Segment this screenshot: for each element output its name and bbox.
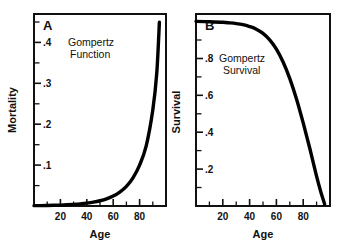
panel-a-yaxis-title: Mortality: [6, 86, 18, 133]
panel-b-survival-curve: [196, 21, 325, 204]
panel-b-survival: .2 .4 .6 .8 20 40 60 80: [171, 0, 343, 247]
panel-b-frame: [196, 14, 330, 206]
panel-b-xtick-label-2: 60: [271, 211, 283, 222]
panel-a-xtick-label-1: 40: [81, 211, 93, 222]
panel-a-annotation-line-2: Function: [70, 48, 110, 60]
panel-a-plot: .1 .2 .3 .4 20 40 60 80: [0, 0, 172, 247]
panel-b-ytick-label-1: .4: [205, 127, 214, 138]
panel-a-ytick-label-1: .2: [43, 119, 52, 130]
panel-b-yaxis-title: Survival: [171, 91, 182, 134]
panel-a-ytick-label-2: .3: [43, 78, 52, 89]
panel-a-xtick-label-2: 60: [108, 211, 120, 222]
panel-b-plot: .2 .4 .6 .8 20 40 60 80: [171, 0, 345, 247]
panel-b-ytick-label-0: .2: [205, 164, 214, 175]
panel-a-xaxis-title: Age: [90, 228, 111, 240]
panel-a-xtick-label-3: 80: [134, 211, 146, 222]
panel-b-ytick-label-2: .6: [205, 90, 214, 101]
panel-a-xtick-label-0: 20: [55, 211, 67, 222]
panel-b-annotation-line-2: Survival: [223, 64, 260, 76]
panel-a-annotation-line-1: Gompertz: [68, 36, 114, 48]
panel-a-mortality: .1 .2 .3 .4 20 40 60 80: [0, 0, 172, 247]
panel-b-xaxis-title: Age: [253, 228, 274, 240]
panel-b-xtick-label-0: 20: [217, 211, 229, 222]
panel-b-ytick-label-3: .8: [205, 53, 214, 64]
panel-a-ytick-label-0: .1: [43, 160, 52, 171]
panel-b-xtick-label-3: 80: [298, 211, 310, 222]
panel-b-xtick-label-1: 40: [244, 211, 256, 222]
gompertz-figure: .1 .2 .3 .4 20 40 60 80: [0, 0, 345, 247]
panel-a-ytick-label-3: .4: [43, 37, 52, 48]
panel-b-annotation-line-1: Gompertz: [219, 52, 265, 64]
panel-a-letter: A: [43, 18, 53, 33]
